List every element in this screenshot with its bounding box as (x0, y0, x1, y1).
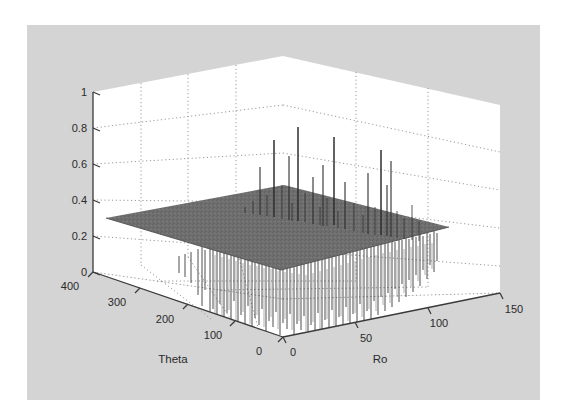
ro-tick-label: 50 (360, 332, 372, 344)
ro-tick-label: 100 (430, 317, 448, 329)
figure-canvas: 1 0.8 0.6 0.4 0.2 0 400 300 200 100 0 0 … (27, 25, 540, 400)
theta-tick-label: 200 (156, 313, 174, 325)
axes-3d: 1 0.8 0.6 0.4 0.2 0 400 300 200 100 0 0 … (27, 25, 540, 400)
theta-tick-label: 300 (108, 296, 126, 308)
axis-label-ro: Ro (373, 353, 388, 365)
z-tick-label: 0.2 (72, 230, 87, 242)
z-tick-label: 0.4 (72, 194, 87, 206)
ro-tick-label: 0 (290, 346, 296, 358)
z-tick-label: 0 (81, 266, 87, 278)
z-tick-label: 0.8 (72, 122, 87, 134)
theta-tick-label: 100 (204, 329, 222, 341)
theta-tick-label: 400 (61, 280, 79, 292)
z-tick-label: 0.6 (72, 158, 87, 170)
z-tick-labels: 1 0.8 0.6 0.4 0.2 0 (72, 86, 87, 278)
theta-tick-label: 0 (256, 345, 262, 357)
ro-tick-label: 150 (505, 303, 523, 315)
axis-label-theta: Theta (158, 353, 188, 365)
matlab-figure-window: 1 0.8 0.6 0.4 0.2 0 400 300 200 100 0 0 … (0, 0, 565, 419)
z-tick-label: 1 (81, 86, 87, 98)
